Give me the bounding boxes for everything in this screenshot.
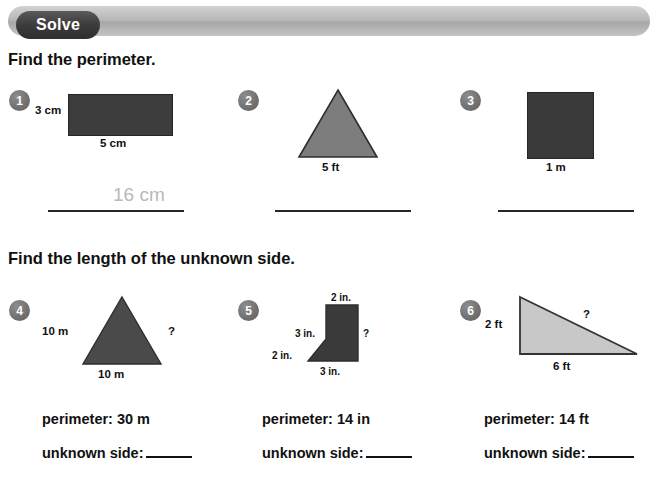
problem-4-label-left: 10 m [42,325,68,337]
problem-4-triangle [79,295,165,367]
problem-1-label-bottom: 5 cm [100,137,126,149]
problem-4-unknown-side: unknown side: [42,444,192,461]
problem-6-unknown-label: unknown side: [484,445,586,461]
problem-5-perimeter: perimeter: 14 in [262,411,370,427]
problem-6-unknown-side: unknown side: [484,444,634,461]
problem-number-3: 3 [460,90,481,111]
problem-6-label-hypotenuse: ? [583,308,590,320]
problem-1-rectangle [68,94,173,136]
problem-2-label-bottom: 5 ft [322,161,339,173]
problem-5-unknown-side: unknown side: [262,444,412,461]
problem-5-label-bottom: 3 in. [320,366,340,377]
problem-1-label-left: 3 cm [35,104,61,116]
section-banner: Solve [8,6,650,36]
problem-6-label-bottom: 6 ft [553,360,570,372]
problem-5-label-diagonal: 2 in. [272,350,292,361]
problem-6-perimeter: perimeter: 14 ft [484,411,589,427]
problem-3-label-bottom: 1 m [546,161,566,173]
problem-number-1: 1 [9,90,30,111]
problem-4-unknown-label: unknown side: [42,445,144,461]
problem-4-label-right: ? [168,325,175,337]
problem-6-right-triangle [516,294,640,360]
problem-5-answer-blank[interactable] [366,444,412,458]
problem-2-triangle [296,88,380,160]
section-heading-perimeter: Find the perimeter. [8,50,156,69]
problem-3-square [527,92,594,159]
problem-6-label-left: 2 ft [485,318,502,330]
problem-4-label-bottom: 10 m [98,368,124,380]
problem-number-6: 6 [460,300,481,321]
solve-pill-label: Solve [36,16,80,34]
problem-number-5: 5 [238,300,259,321]
problem-1-answer-line[interactable] [48,210,184,212]
problem-5-label-top: 2 in. [331,292,351,303]
problem-3-answer-line[interactable] [498,210,634,212]
problem-number-2: 2 [238,90,259,111]
problem-4-answer-blank[interactable] [146,444,192,458]
problem-6-answer-blank[interactable] [588,444,634,458]
section-heading-unknown-side: Find the length of the unknown side. [8,249,295,268]
problem-5-label-right: ? [363,328,369,339]
problem-5-label-left: 3 in. [295,328,315,339]
problem-2-answer-line[interactable] [275,210,411,212]
problem-5-unknown-label: unknown side: [262,445,364,461]
problem-4-perimeter: perimeter: 30 m [42,411,150,427]
solve-pill: Solve [16,11,100,39]
problem-number-4: 4 [9,300,30,321]
problem-1-written-answer: 16 cm [113,184,165,206]
